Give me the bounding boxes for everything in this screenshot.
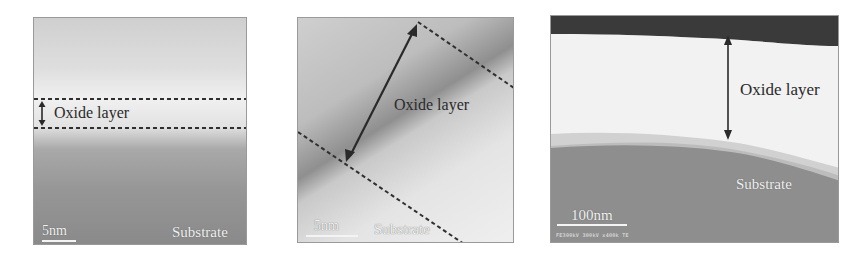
oxide-layer-label: Oxide layer — [394, 96, 469, 114]
oxide-layer-label: Oxide layer — [54, 104, 129, 122]
oxide-region — [551, 34, 839, 176]
oxide-top-boundary-line — [418, 22, 514, 88]
instrument-info-text: FE300kV 300kV x400k TE — [556, 232, 629, 238]
annotation-overlay-a — [34, 18, 247, 245]
annotation-overlay-b — [298, 18, 514, 243]
scale-bar-label: 5nm — [42, 223, 67, 239]
substrate-label: Substrate — [374, 221, 430, 238]
micrograph-panel-b: Oxide layer Substrate 5nm — [297, 17, 514, 243]
scale-bar — [557, 224, 627, 226]
oxide-layer-label: Oxide layer — [740, 80, 820, 100]
scale-bar — [42, 240, 76, 242]
scale-bar — [306, 235, 358, 237]
scale-bar-label: 100nm — [571, 207, 613, 224]
substrate-label: Substrate — [172, 224, 228, 241]
double-arrow-icon — [345, 24, 417, 162]
micrograph-panel-c: Oxide layer Substrate 100nm FE300kV 300k… — [550, 15, 839, 243]
scale-bar-label: 5nm — [314, 218, 339, 234]
micrograph-panel-a: Oxide layer Substrate 5nm — [33, 17, 247, 245]
substrate-label: Substrate — [736, 176, 792, 193]
double-arrow-icon — [39, 101, 46, 126]
